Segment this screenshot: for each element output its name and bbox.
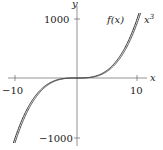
ytick-label-neg1000: −1000 <box>39 133 73 144</box>
ytick-label-pos1000: 1000 <box>44 14 69 25</box>
chart: y x −10 10 1000 −1000 f(x) x3 <box>0 0 163 150</box>
xtick-label-neg10: −10 <box>2 85 23 96</box>
x-axis-label: x <box>150 72 156 83</box>
xtick-label-pos10: 10 <box>130 85 143 96</box>
series-f-label: f(x) <box>106 14 124 25</box>
series-cube-label: x3 <box>144 13 155 25</box>
y-axis-label: y <box>71 0 78 9</box>
